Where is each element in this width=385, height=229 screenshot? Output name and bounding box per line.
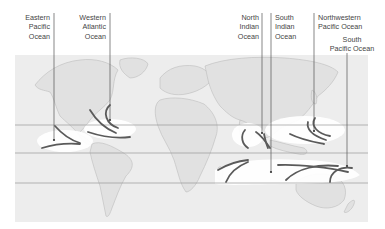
label-line: Eastern — [25, 13, 50, 22]
label-line: South — [275, 13, 296, 22]
label-line: Pacific Ocean — [322, 44, 382, 53]
label-line: Pacific — [25, 22, 50, 31]
label-line: Pacific Ocean — [318, 22, 362, 31]
label-eastern-pacific: Eastern Pacific Ocean — [25, 13, 50, 41]
label-line: South — [322, 35, 382, 44]
label-line: North — [238, 13, 259, 22]
label-south-pacific: South Pacific Ocean — [322, 35, 382, 54]
label-line: Northwestern — [318, 13, 362, 22]
label-line: Ocean — [238, 32, 259, 41]
label-western-atlantic: Western Atlantic Ocean — [79, 13, 106, 41]
label-north-indian: North Indian Ocean — [238, 13, 259, 41]
label-line: Ocean — [25, 32, 50, 41]
label-line: Atlantic — [79, 22, 106, 31]
label-line: Ocean — [79, 32, 106, 41]
label-south-indian: South Indian Ocean — [275, 13, 296, 41]
label-line: Indian — [238, 22, 259, 31]
label-line: Indian — [275, 22, 296, 31]
label-northwestern-pacific: Northwestern Pacific Ocean — [318, 13, 362, 32]
label-line: Ocean — [275, 32, 296, 41]
label-line: Western — [79, 13, 106, 22]
